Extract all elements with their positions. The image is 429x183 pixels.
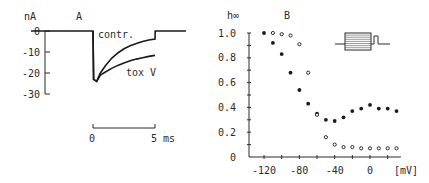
- data-point-filled: [377, 107, 381, 111]
- panel-b-y-tick-label: 1.0: [218, 28, 236, 39]
- panel-a: nA A 0-10-20-30 contr. tox V 0 5 ms: [22, 11, 186, 144]
- panel-b-y-tick-label: 0.2: [218, 127, 236, 138]
- data-point-open: [289, 34, 292, 37]
- data-point-open: [280, 33, 283, 36]
- panel-b-xlabel: [mV]: [394, 165, 418, 176]
- data-point-filled: [306, 102, 310, 106]
- data-point-filled: [386, 107, 390, 111]
- data-point-open: [333, 143, 336, 146]
- data-point-open: [298, 43, 301, 46]
- data-point-filled: [280, 52, 284, 56]
- data-point-filled: [333, 119, 337, 123]
- data-point-filled: [324, 118, 328, 122]
- panel-a-ylabel: nA: [24, 11, 36, 22]
- data-point-open: [307, 71, 310, 74]
- data-point-filled: [342, 115, 346, 119]
- panel-b: h∞ B 00.20.40.60.81.0-120-80-400 [mV]: [218, 10, 418, 176]
- data-point-open: [386, 147, 389, 150]
- data-point-open: [377, 147, 380, 150]
- data-point-filled: [359, 107, 363, 111]
- panel-a-y-tick-label: -10: [22, 47, 40, 58]
- panel-b-y-tick-label: 0: [230, 152, 236, 163]
- data-point-filled: [262, 31, 266, 35]
- pulse-protocol-inset: [335, 33, 390, 50]
- time-scale-bar: [93, 124, 155, 128]
- panel-b-y-tick-label: 0.8: [218, 52, 236, 63]
- data-point-open: [315, 113, 318, 116]
- panel-a-label-contr: contr.: [98, 29, 134, 40]
- data-point-open: [351, 146, 354, 149]
- data-point-filled: [395, 109, 399, 113]
- panel-a-label-toxv: tox V: [126, 67, 156, 78]
- panel-b-x-tick-label: -40: [326, 165, 344, 176]
- data-point-filled: [350, 109, 354, 113]
- data-point-open: [395, 147, 398, 150]
- panel-b-axes: 00.20.40.60.81.0-120-80-400: [218, 28, 401, 177]
- figure: nA A 0-10-20-30 contr. tox V 0 5 ms h∞ B…: [0, 0, 429, 183]
- panel-b-x-tick-label: 0: [367, 165, 373, 176]
- panel-b-y-tick-label: 0.6: [218, 77, 236, 88]
- panel-a-y-tick-label: -20: [22, 68, 40, 79]
- data-point-filled: [368, 103, 372, 107]
- data-point-filled: [298, 88, 302, 92]
- scale-bar-label-end: 5 ms: [151, 133, 175, 144]
- data-point-open: [271, 31, 274, 34]
- panel-a-title: A: [76, 11, 82, 22]
- panel-a-y-axis: 0-10-20-30: [22, 26, 50, 100]
- panel-b-points: [262, 31, 398, 150]
- scale-bar-label-start: 0: [89, 133, 95, 144]
- data-point-filled: [271, 41, 275, 45]
- panel-a-y-tick-label: -30: [22, 89, 40, 100]
- data-point-filled: [289, 71, 293, 75]
- inset-test-pulse: [371, 36, 390, 44]
- panel-b-x-tick-label: -80: [290, 165, 308, 176]
- data-point-open: [360, 147, 363, 150]
- panel-b-title: B: [284, 10, 290, 21]
- panel-b-y-tick-label: 0.4: [218, 102, 236, 113]
- panel-b-ylabel: h∞: [227, 10, 239, 21]
- data-point-open: [368, 147, 371, 150]
- panel-b-x-tick-label: -120: [252, 165, 276, 176]
- data-point-open: [342, 146, 345, 149]
- data-point-open: [324, 136, 327, 139]
